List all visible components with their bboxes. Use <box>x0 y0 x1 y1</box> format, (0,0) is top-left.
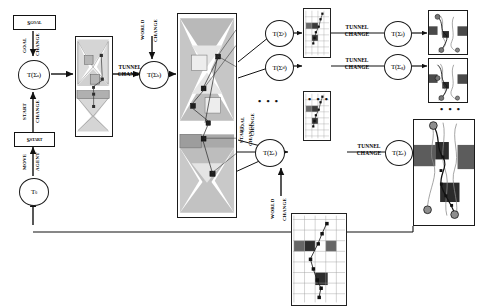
state-node-sigma-final: T(Σe) <box>385 140 413 166</box>
state-node-sigma-a: T(Σa) <box>18 60 50 90</box>
goal-change-label: GOAL <box>22 34 28 56</box>
tunnel-change-label-2: TUNNEL CHANGE <box>340 24 374 38</box>
tunnel-change-label-3: TUNNEL CHANGE <box>340 57 374 71</box>
s-goal-label-small: GOAL <box>30 20 41 25</box>
environment-map-final <box>413 119 475 226</box>
tunnel-change-label-4: TUNNEL CHANGE <box>352 143 386 157</box>
roadmap-large-graphic <box>178 14 236 217</box>
world-change-label-2: WORLD <box>270 196 276 222</box>
roadmap-panel-large <box>177 13 237 218</box>
roadmap-graphic <box>76 37 112 136</box>
s-start-box: SSTART <box>14 132 55 147</box>
move-agent-label: MOVE <box>22 150 28 174</box>
world-change-label-2b: CHANGE <box>282 196 288 222</box>
grid-map-3-graphic <box>292 214 346 305</box>
s-goal-box: SGOAL <box>13 15 56 30</box>
grid-map-1 <box>303 8 331 58</box>
environment-map-1-graphic <box>429 11 467 54</box>
move-agent-label-2: AGENT <box>35 150 41 174</box>
state-node-sigma-e: T(Σe) <box>255 139 285 167</box>
ellipsis-col4: • • • <box>308 94 329 104</box>
state-node-sigma-g: T(Σg) <box>384 54 412 80</box>
s-start-label-small: START <box>30 137 42 142</box>
grid-map-1-graphic <box>304 9 330 57</box>
world-change-label-1b: CHANGE <box>153 18 159 42</box>
goal-change-label-2col-b: CHANGE <box>250 112 256 136</box>
goal-change-label-2col: GOAL <box>240 112 246 136</box>
ellipsis-col3: • • • <box>258 96 279 106</box>
ellipsis-col6: • • • <box>440 104 461 114</box>
environment-map-2-graphic <box>429 59 467 102</box>
roadmap-panel-small <box>75 36 113 137</box>
initial-tree-node: T0 <box>19 178 49 206</box>
goal-change-label-2: CHANGE <box>35 34 41 56</box>
world-change-label-1: WORLD <box>140 18 146 42</box>
grid-map-3 <box>291 213 347 306</box>
environment-map-1 <box>428 10 468 55</box>
start-change-label-2: CHANGE <box>35 96 41 126</box>
state-node-sigma-b: T(Σb) <box>139 61 169 89</box>
state-node-sigma-c: T(Σc) <box>265 20 294 47</box>
start-change-label: START <box>22 96 28 126</box>
state-node-sigma-d: T(Σd) <box>265 54 294 81</box>
environment-map-final-graphic <box>414 120 474 225</box>
environment-map-2 <box>428 58 468 103</box>
state-node-sigma-f: T(Σf) <box>384 21 412 47</box>
